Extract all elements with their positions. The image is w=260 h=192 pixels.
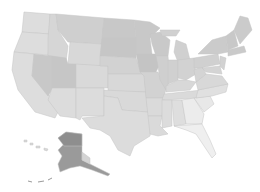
state-north-dakota[interactable] — [102, 18, 136, 38]
state-kansas[interactable] — [108, 74, 146, 92]
state-arkansas[interactable] — [146, 98, 164, 116]
state-colorado[interactable] — [76, 64, 108, 88]
state-new-york[interactable] — [198, 36, 228, 54]
alaska-aleutian-islands — [28, 178, 52, 182]
state-new-jersey[interactable] — [220, 56, 226, 70]
state-michigan-upper[interactable] — [160, 30, 180, 36]
state-hawaii[interactable] — [24, 140, 48, 151]
state-ohio[interactable] — [178, 58, 196, 80]
state-pennsylvania[interactable] — [194, 54, 220, 68]
state-mississippi[interactable] — [162, 100, 172, 128]
state-alaska-north[interactable] — [58, 132, 82, 146]
state-florida[interactable] — [174, 124, 216, 158]
state-washington[interactable] — [22, 12, 50, 34]
state-oregon[interactable] — [14, 32, 50, 55]
us-choropleth-map — [0, 0, 260, 192]
state-wyoming[interactable] — [68, 42, 102, 66]
state-indiana[interactable] — [168, 60, 178, 84]
state-south-dakota[interactable] — [100, 38, 136, 58]
state-new-mexico[interactable] — [76, 88, 104, 120]
